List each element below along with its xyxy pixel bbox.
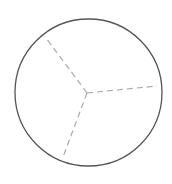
divided-circle-diagram <box>0 0 172 184</box>
divider-line-upper-left <box>46 38 87 93</box>
divider-line-right <box>87 86 157 93</box>
divider-line-bottom <box>63 93 87 157</box>
